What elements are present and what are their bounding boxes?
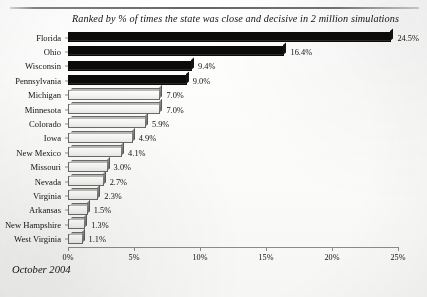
bar-row: Pennsylvania9.0%	[68, 74, 398, 87]
bar-row: Florida24.5%	[68, 31, 398, 44]
bar-nevada	[68, 176, 104, 186]
bar-row: Virginia2.3%	[68, 189, 398, 202]
bar-ohio	[68, 46, 284, 56]
bar-florida	[68, 32, 391, 42]
bar-wisconsin	[68, 61, 192, 71]
bar-value-label: 5.9%	[152, 119, 169, 128]
plot-area: Florida24.5%Ohio16.4%Wisconsin9.4%Pennsy…	[68, 31, 398, 247]
bar-value-label: 2.7%	[110, 177, 127, 186]
bar-row: Colorado5.9%	[68, 117, 398, 130]
bar-value-label: 4.9%	[139, 134, 156, 143]
chart-caption: October 2004	[12, 264, 71, 275]
chart-page: Ranked by % of times the state was close…	[0, 0, 427, 297]
category-label-florida: Florida	[36, 33, 61, 43]
bar-value-label: 7.0%	[166, 105, 183, 114]
category-label-minnesota: Minnesota	[25, 105, 61, 115]
category-label-iowa: Iowa	[44, 133, 61, 143]
bar-value-label: 4.1%	[128, 148, 145, 157]
bar-west-virginia	[68, 234, 83, 244]
bar-value-label: 9.4%	[198, 62, 215, 71]
top-horizontal-rule	[10, 7, 419, 9]
category-label-michigan: Michigan	[28, 90, 61, 100]
bar-row: New Hampshire1.3%	[68, 218, 398, 231]
category-label-pennsylvania: Pennsylvania	[15, 76, 61, 86]
bar-row: Missouri3.0%	[68, 161, 398, 174]
x-axis-tick	[332, 247, 333, 251]
category-label-wisconsin: Wisconsin	[25, 61, 61, 71]
bar-michigan	[68, 90, 160, 100]
bar-value-label: 7.0%	[166, 91, 183, 100]
bar-missouri	[68, 162, 108, 172]
bar-row: West Virginia1.1%	[68, 233, 398, 246]
category-label-missouri: Missouri	[30, 162, 61, 172]
category-label-colorado: Colorado	[29, 119, 61, 129]
bar-arkansas	[68, 205, 88, 215]
category-label-ohio: Ohio	[44, 47, 61, 57]
bar-value-label: 2.3%	[104, 191, 121, 200]
bar-value-label: 3.0%	[114, 163, 131, 172]
chart-title: Ranked by % of times the state was close…	[72, 13, 424, 24]
x-axis-tick	[200, 247, 201, 251]
bar-row: Ohio16.4%	[68, 45, 398, 58]
bar-new-mexico	[68, 147, 122, 157]
bar-value-label: 1.1%	[89, 235, 106, 244]
bar-row: Arkansas1.5%	[68, 204, 398, 217]
category-label-new-hampshire: New Hampshire	[5, 220, 61, 230]
category-label-virginia: Virginia	[33, 191, 61, 201]
category-label-west-virginia: West Virginia	[14, 234, 61, 244]
x-axis-tick	[134, 247, 135, 251]
category-label-arkansas: Arkansas	[29, 205, 61, 215]
bar-value-label: 9.0%	[193, 76, 210, 85]
x-axis-line: 0%5%10%15%20%25%	[68, 247, 398, 248]
x-axis-tick-label: 0%	[63, 253, 74, 262]
x-axis-tick	[266, 247, 267, 251]
bar-value-label: 1.5%	[94, 206, 111, 215]
bar-row: Iowa4.9%	[68, 132, 398, 145]
bar-value-label: 24.5%	[397, 33, 419, 42]
x-axis-tick-label: 20%	[324, 253, 339, 262]
x-axis-tick-label: 10%	[192, 253, 207, 262]
x-axis-tick-label: 5%	[129, 253, 140, 262]
bar-row: Minnesota7.0%	[68, 103, 398, 116]
x-axis-tick	[398, 247, 399, 251]
x-axis-tick	[68, 247, 69, 251]
bar-row: Wisconsin9.4%	[68, 60, 398, 73]
x-axis-tick-label: 15%	[258, 253, 273, 262]
x-axis-tick-label: 25%	[390, 253, 405, 262]
bar-row: Nevada2.7%	[68, 175, 398, 188]
bar-value-label: 1.3%	[91, 220, 108, 229]
category-label-nevada: Nevada	[35, 177, 61, 187]
bar-pennsylvania	[68, 75, 187, 85]
bar-row: New Mexico4.1%	[68, 146, 398, 159]
bar-virginia	[68, 190, 98, 200]
bar-new-hampshire	[68, 219, 85, 229]
bar-row: Michigan7.0%	[68, 89, 398, 102]
category-label-new-mexico: New Mexico	[16, 148, 61, 158]
bar-value-label: 16.4%	[290, 47, 312, 56]
